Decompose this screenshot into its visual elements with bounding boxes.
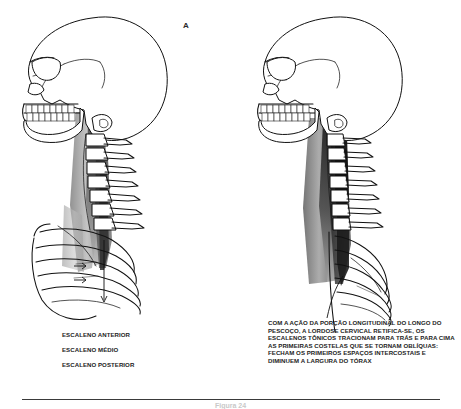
figure-caption-cropped: Figura 24 bbox=[0, 401, 461, 409]
label-escaleno-medio: ESCALENO MÉDIO bbox=[62, 346, 212, 354]
panel-a: A ESCALENO ANTERIOR ESCALENO MÉDIO ESCAL… bbox=[0, 0, 230, 392]
maxilla-teeth-b bbox=[258, 104, 315, 121]
label-escaleno-posterior: ESCALENO POSTERIOR bbox=[62, 361, 212, 369]
maxilla-teeth-a bbox=[23, 104, 80, 121]
panel-letter-a: A bbox=[183, 21, 189, 30]
panel-b-description-text: COM A AÇÃO DA PORÇÃO LONGITUDINAL DO LON… bbox=[268, 319, 456, 365]
label-escaleno-anterior: ESCALENO ANTERIOR bbox=[62, 331, 212, 339]
bottom-divider bbox=[22, 399, 440, 400]
figure-page: A ESCALENO ANTERIOR ESCALENO MÉDIO ESCAL… bbox=[0, 0, 461, 409]
scalene-labels-a: ESCALENO ANTERIOR ESCALENO MÉDIO ESCALEN… bbox=[62, 323, 212, 376]
